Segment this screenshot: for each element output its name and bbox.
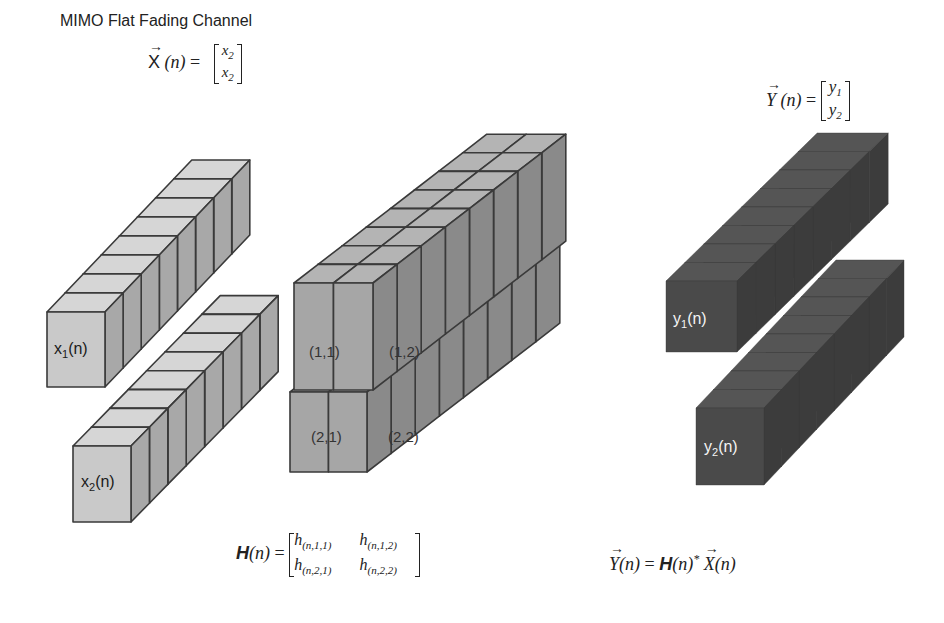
channel-matrix-equation: H(n) = h(n,1,1) h(n,1,2) h(n,2,1) h(n,2,…: [236, 530, 420, 580]
input-stream-x1-label: x1(n): [54, 340, 88, 360]
input-stream-x2-label: x2(n): [81, 473, 115, 493]
mimo-relation-equation: →Y(n) = H(n)* →X(n): [609, 552, 736, 575]
diagram-title: MIMO Flat Fading Channel: [60, 12, 252, 30]
vector-x-symbol: →X: [704, 554, 715, 575]
h-top-cube-front: [334, 283, 374, 390]
input-vector-entries: x2x2: [219, 42, 237, 86]
vector-arrow-icon: →: [705, 541, 719, 557]
right-bracket: [237, 44, 242, 84]
right-bracket: [845, 81, 850, 121]
vector-arrow-icon: →: [610, 541, 624, 557]
h-top-cube-side: [421, 227, 445, 353]
h-top-cube-side: [494, 171, 518, 297]
channel-cell-1-2-label: (1,2): [389, 343, 420, 360]
output-vector-entries: y1y2: [826, 78, 845, 125]
output-stream-y2-label: y2(n): [704, 438, 738, 458]
channel-cell-2-1-label: (2,1): [311, 428, 342, 445]
vector-y-symbol: →Y: [766, 90, 776, 111]
channel-matrix-entries: h(n,1,1) h(n,1,2) h(n,2,1) h(n,2,2): [294, 530, 397, 580]
channel-cell-1-1-label: (1,1): [309, 343, 340, 360]
vector-y-symbol: →Y: [609, 554, 619, 575]
vector-arrow-icon: →: [767, 77, 781, 93]
vector-x-symbol: →X: [148, 52, 160, 73]
channel-cell-2-2-label: (2,2): [388, 428, 419, 445]
output-stream-y1-label: y1(n): [673, 310, 707, 330]
h-top-cube-side: [518, 153, 542, 279]
input-vector-equation: →X (n) = x2x2: [148, 42, 242, 86]
vector-arrow-icon: →: [149, 39, 163, 55]
h-top-cube-side: [469, 190, 493, 316]
output-vector-equation: →Y (n) = y1y2: [766, 78, 850, 125]
h-top-cube-front: [294, 283, 334, 390]
right-bracket: [415, 533, 420, 577]
h-top-cube-side: [445, 209, 469, 335]
h-top-cube-side: [542, 134, 566, 260]
h-top-cube-side: [373, 264, 397, 390]
